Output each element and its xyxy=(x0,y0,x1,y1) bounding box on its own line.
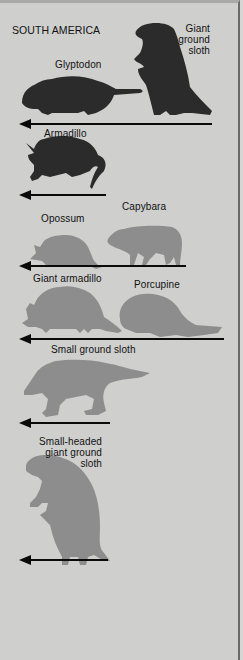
capybara-silhouette xyxy=(107,226,182,265)
label-armadillo: Armadillo xyxy=(44,128,87,139)
small-ground-sloth-silhouette xyxy=(24,360,150,417)
label-small-headed-giant-ground-sloth: Small-headed giant ground sloth xyxy=(30,436,102,469)
label-porcupine: Porcupine xyxy=(134,279,180,290)
small-headed-giant-ground-sloth-silhouette xyxy=(26,455,110,565)
label-line: sloth xyxy=(170,45,210,56)
label-giant-ground-sloth: Giant ground sloth xyxy=(170,23,210,56)
label-capybara: Capybara xyxy=(122,201,166,212)
porcupine-silhouette xyxy=(120,294,222,337)
label-small-ground-sloth: Small ground sloth xyxy=(51,344,136,355)
label-line: Small-headed xyxy=(30,436,102,447)
label-line: Giant xyxy=(170,23,210,34)
label-opossum: Opossum xyxy=(41,213,85,224)
opossum-silhouette xyxy=(30,235,102,269)
giant-armadillo-silhouette xyxy=(22,286,122,333)
figure-panel: SOUTH AMERICA Giant ground sloth Glyptod… xyxy=(0,0,240,660)
label-line: ground xyxy=(170,34,210,45)
armadillo-silhouette xyxy=(26,136,106,189)
label-giant-armadillo: Giant armadillo xyxy=(33,273,102,284)
silhouettes-layer xyxy=(0,3,240,660)
label-glyptodon: Glyptodon xyxy=(55,59,102,70)
label-line: sloth xyxy=(30,458,102,469)
region-title: SOUTH AMERICA xyxy=(12,25,100,36)
arrow-row-2 xyxy=(19,190,106,200)
glyptodon-silhouette xyxy=(22,76,143,115)
arrow-row-5 xyxy=(19,418,110,428)
label-line: giant ground xyxy=(30,447,102,458)
